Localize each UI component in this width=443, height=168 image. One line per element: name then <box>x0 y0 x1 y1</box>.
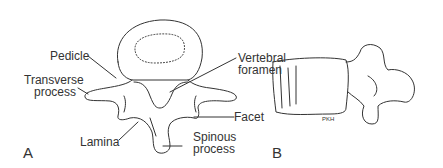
lateral-body <box>273 58 349 115</box>
label-pedicle: Pedicle <box>50 50 89 62</box>
lateral-processes <box>346 45 414 124</box>
lamina-leader <box>119 122 138 140</box>
transverse-leader <box>78 88 88 94</box>
label-spinous-process-line2: process <box>193 143 235 155</box>
panel-letter-b: B <box>272 144 282 161</box>
artist-signature: PKH <box>322 116 334 122</box>
vertebral-body <box>117 20 202 80</box>
label-transverse-process-line2: process <box>24 86 76 98</box>
pedicle-leader <box>88 56 116 78</box>
label-lamina: Lamina <box>80 136 119 148</box>
panel-letter-a: A <box>23 144 33 161</box>
label-facet: Facet <box>234 111 264 123</box>
vertebral-foramen <box>134 82 188 108</box>
label-vertebral-foramen-line2: foramen <box>238 64 282 76</box>
